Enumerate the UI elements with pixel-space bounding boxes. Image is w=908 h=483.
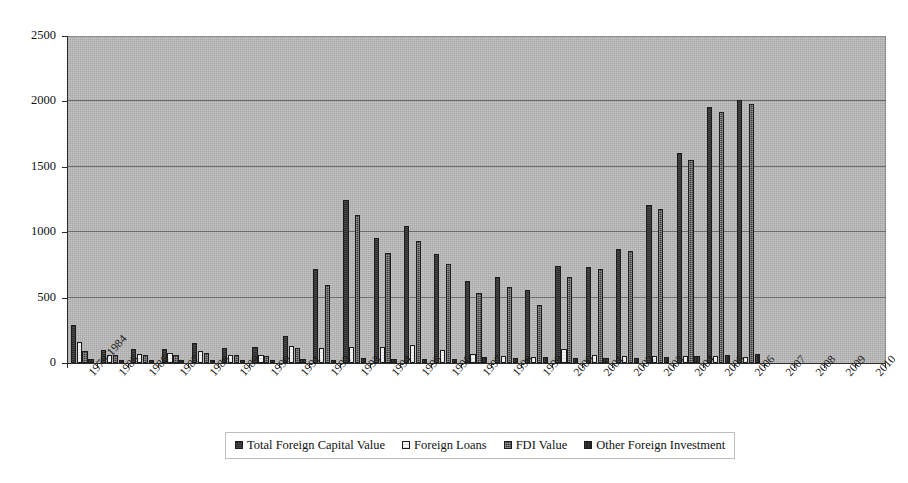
bar-group [795,36,825,363]
x-tick-mark [491,363,492,368]
bar [77,342,82,363]
bar-group [310,36,340,363]
bar [234,355,239,363]
bar [385,253,390,363]
bar [416,241,421,363]
y-tick-mark [62,298,67,299]
bar [598,269,603,363]
x-tick-mark [67,363,68,368]
legend-label-3: Other Foreign Investment [596,439,725,452]
bar [82,351,87,363]
bar [719,112,724,363]
bar [476,293,481,363]
bar [434,254,439,363]
x-tick-mark [309,363,310,368]
series-3-swatch [584,441,592,449]
bar [749,104,754,363]
y-tick-mark [62,232,67,233]
bar-group [735,36,765,363]
x-tick-mark [431,363,432,368]
x-tick-mark [461,363,462,368]
bar-group [492,36,522,363]
x-tick-mark [703,363,704,368]
legend-item-2[interactable]: FDI Value [504,439,568,452]
x-tick-mark [279,363,280,368]
x-tick-mark [855,363,856,368]
bar-group [644,36,674,363]
x-tick-mark [582,363,583,368]
x-tick-mark [764,363,765,368]
bar [507,287,512,363]
y-tick-mark [62,167,67,168]
x-tick-mark [552,363,553,368]
bar [688,160,693,363]
bar [707,107,712,363]
bar-group [674,36,704,363]
bar [404,226,409,363]
bar [677,153,682,363]
x-tick-mark [400,363,401,368]
bar [446,264,451,363]
bar [325,285,330,363]
legend-label-1: Foreign Loans [414,439,487,452]
x-tick-mark [885,363,886,368]
x-tick-mark [824,363,825,368]
bar-group [432,36,462,363]
bar-group [250,36,280,363]
bar [586,267,591,363]
legend-item-0[interactable]: Total Foreign Capital Value [235,439,385,452]
bar-group [401,36,431,363]
bar [628,251,633,363]
bar-group [613,36,643,363]
x-tick-mark [188,363,189,368]
legend-item-3[interactable]: Other Foreign Investment [584,439,725,452]
bar [355,215,360,363]
x-tick-mark [128,363,129,368]
y-tick-label: 2500 [0,29,56,42]
y-tick-label: 0 [0,356,56,369]
bar [264,356,269,363]
bar-group [765,36,795,363]
bar [71,325,76,363]
y-tick-label: 1000 [0,225,56,238]
bar-group [219,36,249,363]
legend-item-1[interactable]: Foreign Loans [402,439,487,452]
x-tick-mark [370,363,371,368]
bar [616,249,621,363]
bar [537,305,542,363]
bar [343,200,348,364]
y-tick-mark [62,36,67,37]
bar [204,353,209,363]
bar-group [462,36,492,363]
bar [143,355,148,364]
x-tick-mark [218,363,219,368]
x-tick-mark [97,363,98,368]
legend-label-2: FDI Value [516,439,568,452]
bar-group [280,36,310,363]
x-tick-mark [158,363,159,368]
bar-group [583,36,613,363]
x-tick-mark [612,363,613,368]
bar-group [371,36,401,363]
bar [567,277,572,363]
bar-group [856,36,886,363]
plot-area [67,36,886,364]
y-tick-mark [62,101,67,102]
bar [555,266,560,363]
legend-label-0: Total Foreign Capital Value [247,439,385,452]
bar [658,209,663,363]
bar-group [341,36,371,363]
bar-group [129,36,159,363]
x-tick-mark [734,363,735,368]
x-tick-mark [643,363,644,368]
bar-group [704,36,734,363]
bar-group [825,36,855,363]
series-2-swatch [504,441,512,449]
bar-group [159,36,189,363]
x-tick-mark [794,363,795,368]
bar-group [98,36,128,363]
chart-legend: Total Foreign Capital Value Foreign Loan… [225,432,735,459]
bar [313,269,318,363]
y-tick-label: 500 [0,291,56,304]
bar [495,277,500,363]
